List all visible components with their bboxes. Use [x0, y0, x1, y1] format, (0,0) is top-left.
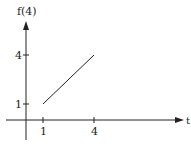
x-axis: [6, 117, 184, 123]
y-tick-label-4: 4: [15, 49, 22, 62]
x-tick-label-1: 1: [40, 125, 47, 138]
x-axis-label: t: [186, 115, 190, 126]
y-axis: [23, 21, 29, 140]
x-axis-arrow-icon: [175, 117, 184, 123]
x-tick-label-4: 4: [91, 125, 98, 138]
y-axis-arrow-icon: [23, 21, 29, 30]
y-tick-label-1: 1: [15, 98, 22, 111]
series-line: [43, 55, 94, 104]
chart: f(4) t 1 4 1 4: [0, 0, 191, 148]
y-axis-label: f(4): [17, 5, 37, 18]
